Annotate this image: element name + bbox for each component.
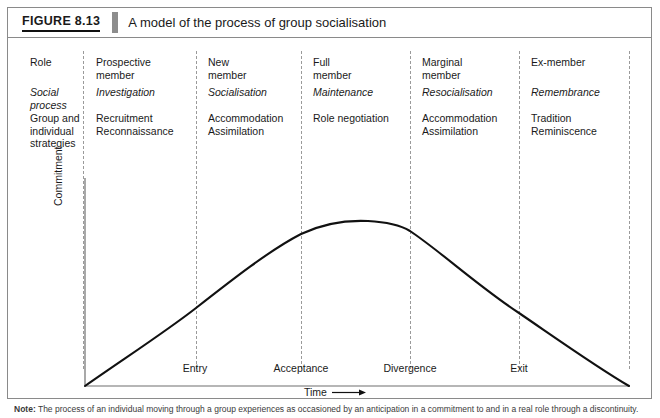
figure-title: A model of the process of group socialis… — [128, 15, 386, 30]
cell-process-new-member: Socialisation — [208, 86, 267, 99]
x-tick-divergence: Divergence — [383, 362, 436, 374]
x-axis-title-text: Time — [304, 386, 327, 398]
column-divider — [196, 51, 197, 369]
column-divider — [83, 51, 84, 369]
x-tick-exit: Exit — [510, 362, 528, 374]
cell-process-ex-member: Remembrance — [531, 86, 600, 99]
header-divider-bar — [112, 12, 118, 33]
figure-note-text: The process of an individual moving thro… — [36, 404, 639, 414]
cell-role-ex-member: Ex-member — [531, 56, 585, 69]
cell-strategies-new-member: Accommodation Assimilation — [208, 112, 283, 137]
figure-note-label: Note: — [14, 404, 36, 414]
cell-process-marginal-member: Resocialisation — [422, 86, 493, 99]
column-divider — [519, 51, 520, 369]
x-tick-entry: Entry — [183, 362, 208, 374]
cell-strategies-prospective-member: Recruitment Reconnaissance — [96, 112, 174, 137]
cell-strategies-full-member: Role negotiation — [313, 112, 389, 125]
column-divider — [301, 51, 302, 369]
cell-role-new-member: New member — [208, 56, 247, 81]
x-tick-acceptance: Acceptance — [274, 362, 329, 374]
column-divider — [629, 51, 630, 369]
row-label-strategies: Group and individual strategies — [30, 112, 80, 150]
arrow-right-icon — [332, 389, 366, 396]
cell-role-full-member: Full member — [313, 56, 352, 81]
x-axis-title: Time — [304, 386, 366, 398]
diagram-body: Role Social process Group and individual… — [8, 38, 651, 398]
figure-frame: FIGURE 8.13 A model of the process of gr… — [7, 7, 652, 399]
cell-process-prospective-member: Investigation — [96, 86, 155, 99]
column-divider — [410, 51, 411, 369]
cell-strategies-ex-member: Tradition Reminiscence — [531, 112, 597, 137]
row-label-role: Role — [30, 56, 52, 69]
cell-strategies-marginal-member: Accommodation Assimilation — [422, 112, 497, 137]
figure-header: FIGURE 8.13 A model of the process of gr… — [8, 8, 651, 38]
cell-process-full-member: Maintenance — [313, 86, 373, 99]
cell-role-marginal-member: Marginal member — [422, 56, 462, 81]
y-axis-label: Commitment — [52, 146, 64, 206]
commitment-curve — [85, 221, 629, 386]
cell-role-prospective-member: Prospective member — [96, 56, 151, 81]
figure-number: FIGURE 8.13 — [22, 14, 100, 32]
row-label-social-process: Social process — [30, 86, 67, 111]
figure-note: Note: The process of an individual movin… — [14, 404, 644, 418]
